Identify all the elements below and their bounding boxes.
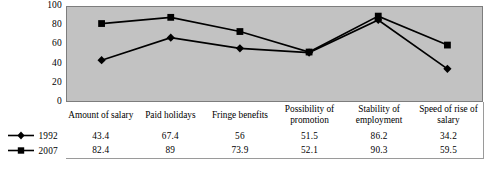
table-cell: 86.2 xyxy=(344,128,414,143)
plot-area xyxy=(66,6,483,102)
table-cell: 73.9 xyxy=(205,143,275,158)
legend-label: 1992 xyxy=(38,131,57,141)
table-cell: 89 xyxy=(136,143,206,158)
table-cell: 90.3 xyxy=(344,143,414,158)
legend-item-1992: 1992 xyxy=(0,128,66,143)
series-line-1992 xyxy=(102,20,448,69)
y-axis-tick: 20 xyxy=(52,78,62,88)
plot-region: 100 80 60 40 20 0 xyxy=(0,6,499,102)
square-marker-icon xyxy=(306,49,313,56)
table-header-row: Amount of salary Paid holidays Fringe be… xyxy=(0,102,484,128)
legend-entry: 2007 xyxy=(8,144,58,157)
table-row: 1992 43.4 67.4 56 51.5 86.2 34.2 xyxy=(0,128,484,143)
table-cell: 67.4 xyxy=(136,128,206,143)
square-marker-icon xyxy=(8,145,34,156)
legend-label: 2007 xyxy=(38,146,57,156)
legend-spacer xyxy=(0,102,66,128)
square-marker-icon xyxy=(237,28,244,35)
diamond-marker-icon xyxy=(167,34,175,42)
column-header: Speed of rise of salary xyxy=(414,102,484,128)
table-cell: 59.5 xyxy=(414,143,484,158)
table-cell: 34.2 xyxy=(414,128,484,143)
column-header: Paid holidays xyxy=(136,102,206,128)
chart-figure: 100 80 60 40 20 0 Amount of salary Paid … xyxy=(0,0,499,171)
data-table-region: Amount of salary Paid holidays Fringe be… xyxy=(0,102,499,166)
y-axis-tick: 100 xyxy=(47,1,62,11)
column-header: Amount of salary xyxy=(66,102,136,128)
table-cell: 82.4 xyxy=(66,143,136,158)
y-axis-tick: 60 xyxy=(52,39,62,49)
diamond-marker-icon xyxy=(236,44,244,52)
square-marker-icon xyxy=(444,42,451,49)
column-header: Fringe benefits xyxy=(205,102,275,128)
diamond-marker-icon xyxy=(97,56,105,64)
table-cell: 56 xyxy=(205,128,275,143)
table-cell: 51.5 xyxy=(275,128,345,143)
y-axis: 100 80 60 40 20 0 xyxy=(30,6,64,102)
table-cell: 52.1 xyxy=(275,143,345,158)
data-table: Amount of salary Paid holidays Fringe be… xyxy=(0,102,484,159)
column-header: Stability of employment xyxy=(344,102,414,128)
series-line-2007 xyxy=(102,16,448,52)
diamond-marker-icon xyxy=(8,130,34,141)
y-axis-tick: 80 xyxy=(52,20,62,30)
legend-item-2007: 2007 xyxy=(0,143,66,158)
table-cell: 43.4 xyxy=(66,128,136,143)
series-canvas xyxy=(67,7,482,101)
table-row: 2007 82.4 89 73.9 52.1 90.3 59.5 xyxy=(0,143,484,158)
legend-entry: 1992 xyxy=(8,129,58,142)
square-marker-icon xyxy=(375,13,382,20)
y-axis-tick: 40 xyxy=(52,59,62,69)
square-marker-icon xyxy=(167,14,174,21)
column-header: Possibility of promotion xyxy=(275,102,345,128)
square-marker-icon xyxy=(98,20,105,27)
